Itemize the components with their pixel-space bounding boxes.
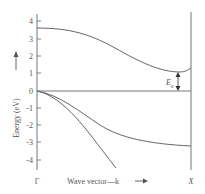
y-tick-label: -1 [26,104,33,113]
y-tick-label: -4 [26,156,33,165]
x-point-label: X [188,177,195,186]
y-tick-label: 2 [29,52,33,61]
y-tick-label: 1 [29,69,33,78]
heavy-hole-band-curve [37,91,116,168]
y-tick-label: -3 [26,138,33,147]
light-hole-band-curve [37,91,191,146]
conduction-band-curve [37,28,191,72]
band-structure-diagram: 4 3 2 1 0 -1 -2 -3 -4 Energy (eV) Eg Γ W… [0,0,205,194]
y-axis-ticks [37,21,41,160]
y-tick-label: 4 [29,17,33,26]
up-arrow-icon [14,51,19,70]
y-axis-label: Energy (eV) [12,98,21,138]
band-gap-label: Eg [165,78,174,88]
band-gap-double-arrow-icon [176,72,181,91]
y-tick-label: 0 [29,87,33,96]
y-tick-label: 3 [29,35,33,44]
x-axis-label: Wave vector—k [67,177,119,186]
gamma-point-label: Γ [35,177,40,186]
right-arrow-icon [135,179,148,184]
y-tick-label: -2 [26,121,33,130]
